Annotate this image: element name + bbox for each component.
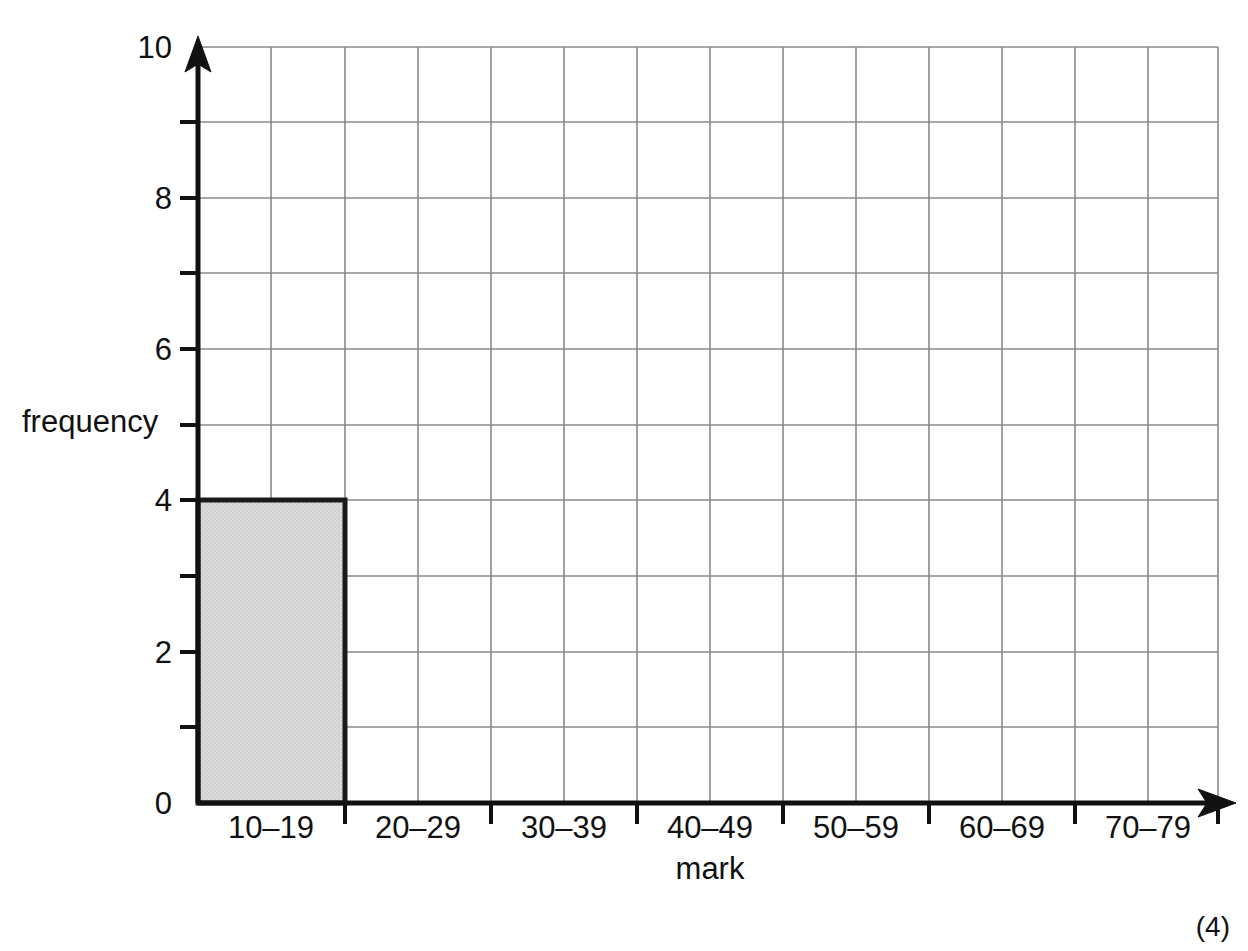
- x-axis-ticks: [345, 803, 1218, 824]
- y-tick-label-4: 4: [130, 485, 172, 516]
- y-tick-label-6: 6: [130, 334, 172, 365]
- marks-available-note: (4): [1196, 911, 1230, 943]
- frequency-diagram: 0 2 4 6 8 10 10–19 20–29 30–39 40–49 50–…: [0, 0, 1248, 951]
- y-axis-ticks: [180, 122, 198, 727]
- x-tick-label-20-29: 20–29: [375, 812, 461, 843]
- chart-canvas: [0, 0, 1248, 951]
- x-tick-label-10-19: 10–19: [228, 812, 314, 843]
- y-tick-label-8: 8: [130, 183, 172, 214]
- x-tick-label-70-79: 70–79: [1105, 812, 1191, 843]
- horizontal-gridlines: [198, 47, 1218, 727]
- x-tick-label-40-49: 40–49: [667, 812, 753, 843]
- x-tick-label-60-69: 60–69: [959, 812, 1045, 843]
- x-tick-label-30-39: 30–39: [521, 812, 607, 843]
- y-axis-title: frequency: [22, 406, 158, 437]
- x-tick-label-50-59: 50–59: [813, 812, 899, 843]
- y-tick-label-0: 0: [130, 788, 172, 819]
- bar-10-19: [198, 500, 345, 803]
- x-axis-title: mark: [676, 853, 745, 884]
- y-tick-label-10: 10: [112, 32, 172, 63]
- y-tick-label-2: 2: [130, 637, 172, 668]
